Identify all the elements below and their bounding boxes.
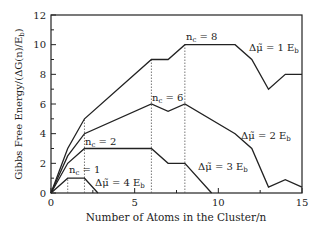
x-tick-label: 0 — [48, 197, 54, 208]
annotation-mu-1: Δμ̃ = 1 Eb — [249, 42, 299, 55]
annotation-nc-8: nc = 8 — [186, 31, 217, 44]
y-tick-label: 2 — [40, 158, 46, 169]
x-tick-label: 15 — [296, 197, 309, 208]
annotation-mu-4: Δμ̃ = 4 Eb — [95, 177, 145, 190]
annotation-mu-3: Δμ̃ = 3 Eb — [198, 161, 248, 174]
annotation-nc-6: nc = 6 — [152, 92, 183, 105]
y-tick-label: 6 — [40, 99, 46, 110]
chart: 051015024681012 Number of Atoms in the C… — [0, 0, 324, 235]
y-tick-label: 4 — [40, 128, 46, 139]
annotation-mu-2: Δμ̃ = 2 Eb — [241, 130, 291, 143]
x-tick-label: 5 — [131, 197, 137, 208]
y-tick-label: 12 — [33, 10, 46, 21]
annotation-nc-2: nc = 2 — [85, 136, 116, 149]
y-tick-label: 0 — [40, 188, 46, 199]
y-tick-label: 10 — [33, 39, 46, 50]
y-tick-label: 8 — [40, 69, 46, 80]
x-axis-label: Number of Atoms in the Cluster/n — [86, 211, 267, 223]
x-tick-label: 10 — [212, 197, 225, 208]
annotation-nc-1: nc = 1 — [69, 164, 100, 177]
y-axis-label: Gibbs Free Energy/(ΔG(n)/Eb) — [13, 28, 26, 179]
